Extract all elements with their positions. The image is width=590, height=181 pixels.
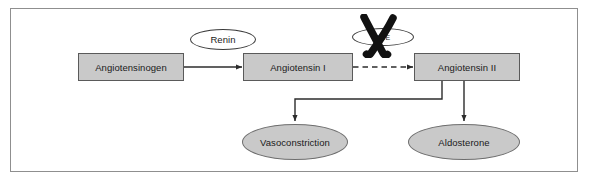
diagram-canvas: Angiotensinogen Angiotensin I Angiotensi…	[0, 0, 590, 181]
node-renin-label: Renin	[210, 34, 235, 45]
node-vasoconstriction-label: Vasoconstriction	[260, 137, 330, 148]
node-angiotensinogen[interactable]: Angiotensinogen	[78, 53, 184, 81]
node-angiotensin-i[interactable]: Angiotensin I	[243, 53, 353, 81]
node-aldosterone[interactable]: Aldosterone	[408, 124, 520, 160]
edge-angiotensin-ii-to-vasoconstriction	[295, 81, 442, 121]
node-aldosterone-label: Aldosterone	[438, 137, 489, 148]
node-renin[interactable]: Renin	[190, 29, 256, 50]
node-angiotensinogen-label: Angiotensinogen	[95, 62, 167, 73]
node-angiotensin-ii[interactable]: Angiotensin II	[414, 53, 520, 81]
blockade-x-icon	[355, 14, 411, 58]
node-vasoconstriction[interactable]: Vasoconstriction	[242, 124, 348, 160]
node-angiotensin-i-label: Angiotensin I	[270, 62, 326, 73]
node-angiotensin-ii-label: Angiotensin II	[438, 62, 496, 73]
